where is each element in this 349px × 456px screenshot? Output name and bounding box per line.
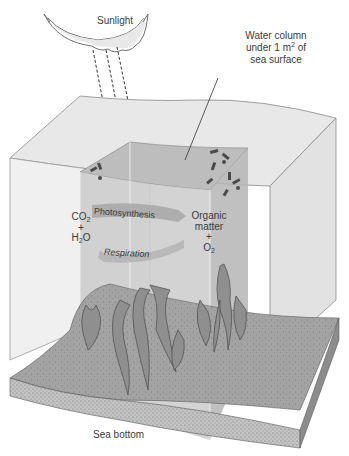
o2-sub: 2 xyxy=(211,247,215,254)
water-column-line2-pre: under 1 m xyxy=(246,42,291,53)
water-column-line1: Water column xyxy=(245,30,306,41)
reactants-plus: + xyxy=(78,222,84,233)
diagram-svg xyxy=(0,0,349,456)
organic-line2: matter xyxy=(195,221,223,232)
h2o-h: H xyxy=(72,232,79,243)
organic-line1: Organic xyxy=(191,210,226,221)
diagram-canvas: Sunlight Water column under 1 m2 of sea … xyxy=(0,0,349,456)
co2-main: CO xyxy=(72,211,87,222)
o2-main: O xyxy=(203,242,211,253)
reactants-label: CO2 + H2O xyxy=(70,212,92,244)
water-column-line3: sea surface xyxy=(250,54,302,65)
co2-sub: 2 xyxy=(87,216,91,223)
h2o-o: O xyxy=(83,232,91,243)
sunlight-label: Sunlight xyxy=(97,16,133,26)
water-column-line2-post: of xyxy=(295,42,306,53)
products-plus: + xyxy=(206,231,212,242)
products-label: Organic matter + O2 xyxy=(186,211,232,253)
water-column-label: Water column under 1 m2 of sea surface xyxy=(234,30,318,67)
sea-bottom-label: Sea bottom xyxy=(93,430,144,440)
